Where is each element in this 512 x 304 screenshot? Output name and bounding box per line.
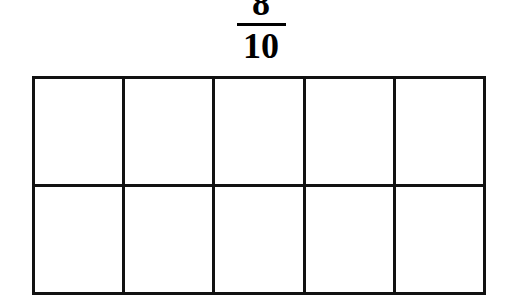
grid-cell[interactable] (214, 186, 304, 294)
grid-cell[interactable] (304, 78, 394, 186)
grid-cell[interactable] (394, 78, 484, 186)
grid-row (34, 78, 485, 186)
grid-cell[interactable] (34, 186, 124, 294)
grid-cell[interactable] (304, 186, 394, 294)
grid-table (32, 76, 486, 295)
grid-cell[interactable] (214, 78, 304, 186)
fraction-label: 8 10 (218, 0, 304, 65)
fraction-model-grid (32, 76, 486, 295)
grid-cell[interactable] (394, 186, 484, 294)
grid-cell[interactable] (124, 186, 214, 294)
grid-body (34, 78, 485, 294)
grid-cell[interactable] (34, 78, 124, 186)
grid-row (34, 186, 485, 294)
grid-cell[interactable] (124, 78, 214, 186)
fraction-numerator: 8 (218, 0, 304, 22)
fraction-denominator: 10 (218, 27, 304, 65)
fraction-worksheet: 8 10 (0, 0, 512, 304)
